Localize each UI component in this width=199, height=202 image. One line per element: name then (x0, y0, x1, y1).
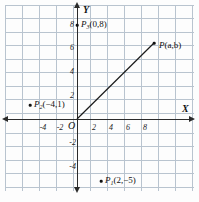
coordinate-plane-figure: X Y O -4 -2 2 4 6 8 8 6 4 2 -2 -4 P3(0,8… (0, 0, 199, 202)
y-tick-label: 2 (70, 92, 74, 100)
x-axis (6, 119, 190, 120)
x-tick-label: 2 (92, 124, 96, 132)
point-marker-P3 (76, 24, 79, 27)
y-axis (77, 6, 78, 188)
y-axis-arrow-down (74, 187, 80, 193)
x-axis-arrow-left (2, 116, 8, 122)
point-label-P2-coords: (−4,1) (43, 99, 65, 109)
x-tick-label: -2 (57, 124, 64, 132)
y-tick-label: 4 (70, 68, 74, 76)
point-label-P2: P2(−4,1) (34, 100, 65, 111)
y-tick-label: 6 (70, 44, 74, 52)
point-label-P3-coords: (0,8) (90, 19, 107, 29)
origin-label: O (68, 121, 75, 131)
y-axis-arrow-up (74, 2, 80, 8)
point-label-P-coords: (a,b) (165, 40, 182, 50)
x-axis-label: X (182, 104, 189, 114)
y-axis-label: Y (83, 5, 89, 15)
point-marker-P (153, 42, 156, 45)
x-axis-arrow-right (189, 116, 195, 122)
y-tick-label: -2 (69, 139, 76, 147)
y-tick-label: 8 (70, 21, 74, 29)
x-tick-label: 6 (126, 124, 130, 132)
point-label-P1: P1(2,−5) (105, 176, 136, 187)
x-tick-label: 4 (109, 124, 113, 132)
point-label-P3: P3(0,8) (81, 20, 107, 31)
point-label-P: P(a,b) (159, 41, 181, 50)
x-tick-label: 8 (143, 124, 147, 132)
point-marker-P2 (29, 104, 32, 107)
y-tick-label: -4 (69, 163, 76, 171)
x-tick-label: -4 (40, 124, 47, 132)
point-marker-P1 (100, 180, 103, 183)
point-label-P1-coords: (2,−5) (114, 175, 136, 185)
